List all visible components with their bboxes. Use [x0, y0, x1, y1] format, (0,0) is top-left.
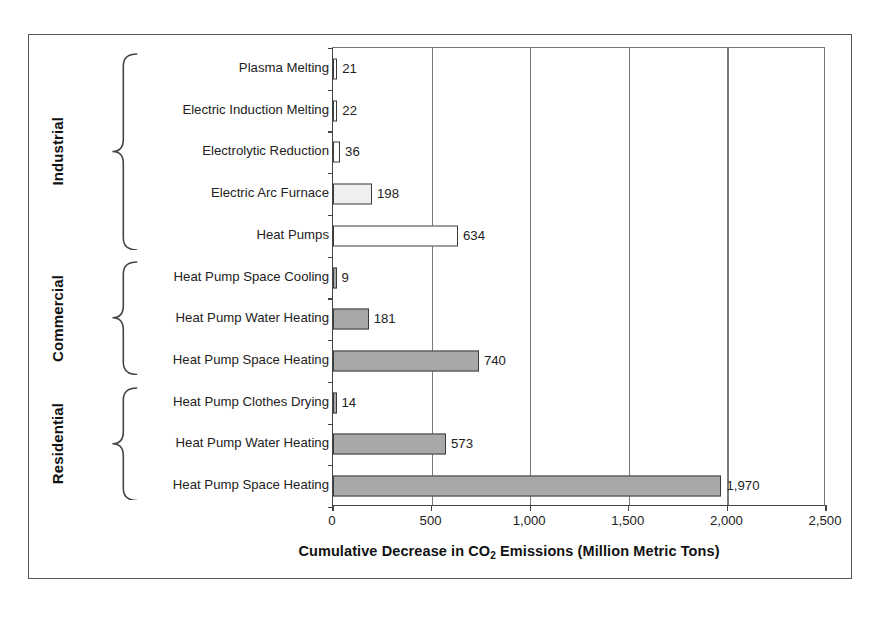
- x-axis-label: 1,000: [513, 513, 546, 528]
- group-label-residential: Residential: [49, 403, 83, 484]
- x-axis-label: 2,500: [808, 513, 841, 528]
- x-axis-label: 1,500: [611, 513, 644, 528]
- gridline-2000: [727, 48, 728, 505]
- x-tick-2000: [727, 505, 728, 511]
- bar-value-label: 181: [370, 312, 396, 326]
- bar-value-label: 9: [338, 271, 349, 285]
- bar-value-label: 21: [338, 62, 357, 76]
- x-axis-tick-labels: 05001,0001,5002,0002,500: [332, 513, 825, 533]
- category-label: Heat Pump Space Heating: [141, 353, 329, 367]
- curly-brace-icon: [83, 387, 145, 500]
- y-tick: [328, 90, 333, 91]
- y-tick: [328, 215, 333, 216]
- category-label: Electric Induction Melting: [141, 103, 329, 117]
- bar-value-label: 1,970: [722, 479, 759, 493]
- x-tick-1000: [530, 505, 531, 511]
- category-label: Electrolytic Reduction: [141, 144, 329, 158]
- bar-residential-heat-pump-space-heating: [333, 476, 721, 497]
- category-label: Heat Pump Clothes Drying: [141, 395, 329, 409]
- category-label: Heat Pump Space Heating: [141, 478, 329, 492]
- y-tick: [328, 298, 333, 299]
- y-tick: [328, 382, 333, 383]
- x-axis-label: 500: [420, 513, 442, 528]
- group-label-commercial: Commercial: [49, 275, 83, 362]
- y-tick: [328, 507, 333, 508]
- figure-frame: IndustrialCommercialResidential Plasma M…: [28, 34, 852, 579]
- x-axis-label: 2,000: [710, 513, 743, 528]
- curly-brace-icon: [83, 261, 145, 374]
- bar-commercial-heat-pump-water-heating: [333, 309, 369, 330]
- gridline-1500: [629, 48, 630, 505]
- y-tick: [328, 257, 333, 258]
- bar-value-label: 14: [338, 396, 357, 410]
- x-tick-1500: [628, 505, 629, 511]
- bar-commercial-heat-pump-space-cooling: [333, 267, 337, 288]
- category-label: Electric Arc Furnace: [141, 186, 329, 200]
- bar-residential-heat-pump-clothes-drying: [333, 392, 337, 413]
- bar-industrial-electric-induction-melting: [333, 100, 337, 121]
- y-tick: [328, 465, 333, 466]
- bar-industrial-plasma-melting: [333, 58, 337, 79]
- category-label: Heat Pump Water Heating: [141, 311, 329, 325]
- y-tick: [328, 131, 333, 132]
- bar-value-label: 198: [373, 187, 399, 201]
- bar-value-label: 740: [480, 354, 506, 368]
- bar-value-label: 22: [338, 104, 357, 118]
- y-tick: [328, 173, 333, 174]
- group-label-industrial: Industrial: [49, 117, 83, 186]
- x-axis-label: 0: [328, 513, 335, 528]
- group-commercial: Commercial: [49, 261, 145, 374]
- curly-brace-icon: [83, 53, 145, 250]
- bar-industrial-electric-arc-furnace: [333, 184, 372, 205]
- group-residential: Residential: [49, 387, 145, 500]
- category-label: Plasma Melting: [141, 61, 329, 75]
- bar-commercial-heat-pump-space-heating: [333, 350, 479, 371]
- bar-value-label: 36: [341, 145, 360, 159]
- category-label: Heat Pumps: [141, 228, 329, 242]
- bar-value-label: 634: [459, 229, 485, 243]
- x-axis-title: Cumulative Decrease in CO2 Emissions (Mi…: [189, 543, 829, 559]
- y-tick: [328, 424, 333, 425]
- y-tick: [328, 340, 333, 341]
- bar-residential-heat-pump-water-heating: [333, 434, 446, 455]
- category-label: Heat Pump Water Heating: [141, 436, 329, 450]
- category-label: Heat Pump Space Cooling: [141, 270, 329, 284]
- gridline-1000: [530, 48, 531, 505]
- bar-industrial-electrolytic-reduction: [333, 142, 340, 163]
- bar-value-label: 573: [447, 437, 473, 451]
- y-tick: [328, 48, 333, 49]
- plot-area: 2122361986349181740145731,970: [332, 47, 825, 506]
- bar-industrial-heat-pumps: [333, 225, 458, 246]
- x-tick-2500: [825, 505, 826, 511]
- group-industrial: Industrial: [49, 53, 145, 250]
- x-tick-500: [431, 505, 432, 511]
